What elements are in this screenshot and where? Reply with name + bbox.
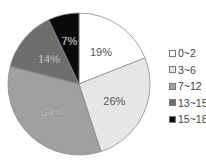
legend-label: 13~15: [178, 97, 206, 109]
slice-label: 14%: [38, 53, 60, 65]
legend-item-0-2: 0~2: [169, 45, 206, 62]
legend: 0~2 3~6 7~12 13~15 15~18: [169, 45, 206, 128]
slice-label: 19%: [90, 46, 112, 58]
legend-swatch: [169, 99, 176, 106]
legend-label: 0~2: [178, 47, 196, 59]
legend-swatch: [169, 83, 176, 90]
legend-label: 3~6: [178, 64, 196, 76]
legend-item-7-12: 7~12: [169, 78, 206, 95]
slice-label: 26%: [103, 95, 125, 107]
legend-label: 7~12: [178, 80, 202, 92]
legend-swatch: [169, 50, 176, 57]
legend-item-3-6: 3~6: [169, 62, 206, 79]
slice-label: 7%: [61, 35, 77, 47]
slice-label: 34%: [41, 106, 63, 118]
legend-item-13-15: 13~15: [169, 95, 206, 112]
legend-label: 15~18: [178, 113, 206, 125]
legend-item-15-18: 15~18: [169, 111, 206, 128]
legend-swatch: [169, 66, 176, 73]
legend-swatch: [169, 116, 176, 123]
